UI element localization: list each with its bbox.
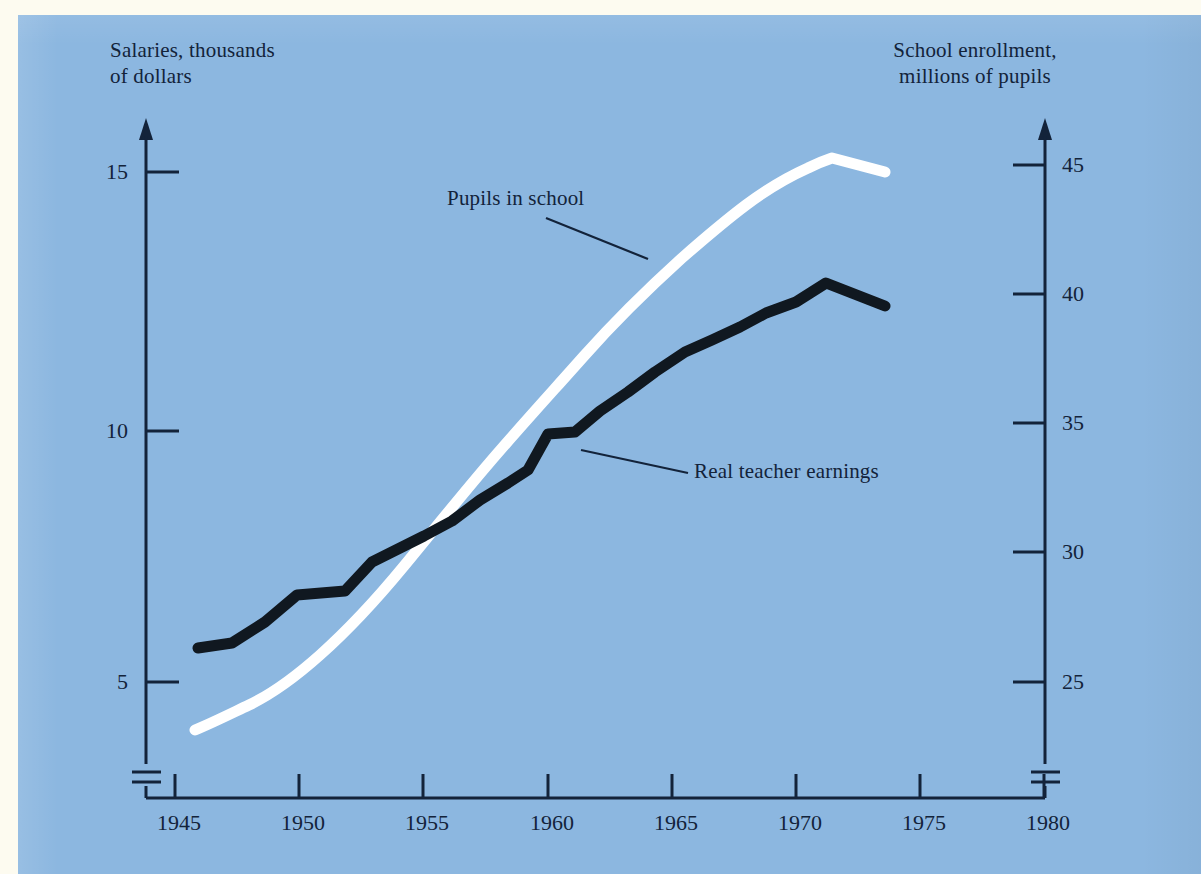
xtick-label-1965: 1965 (654, 810, 698, 836)
xtick-label-1950: 1950 (281, 810, 325, 836)
xtick-label-1970: 1970 (778, 810, 822, 836)
right-ytick-label-30: 30 (1062, 539, 1084, 565)
left-ytick-label-5: 5 (117, 669, 128, 695)
figure-root: Salaries, thousands of dollars School en… (0, 0, 1201, 874)
xtick-label-1975: 1975 (902, 810, 946, 836)
leader-line-pupils (546, 218, 648, 259)
left-ytick-label-15: 15 (106, 159, 128, 185)
right-ytick-label-35: 35 (1062, 410, 1084, 436)
right-axis-group (1013, 118, 1060, 798)
plot-area (0, 0, 1201, 874)
annotation-real-teacher-earnings: Real teacher earnings (694, 459, 879, 484)
leader-line-earnings (581, 450, 688, 473)
right-axis-caption: School enrollment, millions of pupils (830, 37, 1120, 89)
xtick-label-1980: 1980 (1026, 810, 1070, 836)
annotation-pupils-in-school: Pupils in school (447, 186, 584, 211)
xtick-label-1960: 1960 (530, 810, 574, 836)
right-ytick-label-40: 40 (1062, 281, 1084, 307)
xtick-label-1955: 1955 (405, 810, 449, 836)
left-axis-caption: Salaries, thousands of dollars (110, 37, 275, 89)
xtick-label-1945: 1945 (157, 810, 201, 836)
right-ytick-label-25: 25 (1062, 669, 1084, 695)
left-axis-group (132, 118, 179, 798)
right-ytick-label-45: 45 (1062, 152, 1084, 178)
left-ytick-label-10: 10 (106, 418, 128, 444)
x-axis-group (146, 774, 1045, 798)
